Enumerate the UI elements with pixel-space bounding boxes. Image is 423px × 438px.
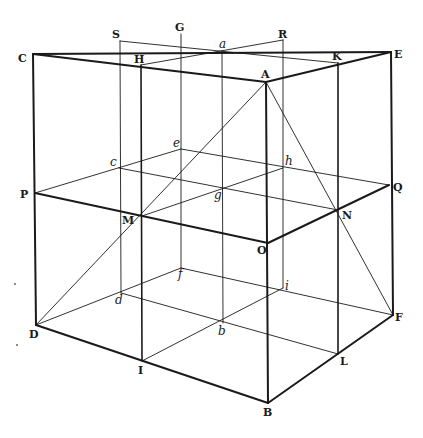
point-label-K: K	[332, 50, 342, 63]
stray-marks	[14, 283, 18, 346]
point-label-g: g	[214, 188, 222, 202]
segment-D-B	[36, 325, 268, 403]
point-label-e: e	[173, 136, 180, 150]
point-label-Q: Q	[393, 181, 403, 194]
point-label-N: N	[342, 209, 352, 222]
cube-diagram-svg: CSGREHaKAechPQgMNOfidDFbILB	[0, 0, 423, 438]
segment-A-E	[266, 52, 391, 82]
segment-a-b	[222, 51, 223, 323]
point-label-B: B	[263, 406, 272, 419]
segment-D-f	[36, 268, 181, 325]
point-label-M: M	[122, 214, 134, 227]
point-label-H: H	[134, 53, 144, 66]
segment-C-A	[33, 54, 266, 82]
point-label-D: D	[29, 328, 39, 341]
segment-P-e	[35, 149, 181, 193]
segment-B-F	[268, 315, 393, 403]
point-label-c: c	[110, 155, 117, 169]
point-label-O: O	[257, 244, 267, 257]
cube-diagram: CSGREHaKAechPQgMNOfidDFbILB	[0, 0, 423, 438]
point-label-G: G	[175, 21, 184, 34]
segment-d-L	[121, 293, 338, 354]
point-label-A: A	[260, 68, 270, 81]
point-label-C: C	[18, 52, 27, 65]
point-label-f: f	[177, 267, 185, 281]
point-label-I: I	[138, 364, 143, 377]
point-label-F: F	[395, 311, 403, 324]
segment-I-i	[142, 288, 283, 361]
segment-c-N	[119, 168, 338, 210]
point-label-E: E	[394, 48, 402, 61]
stray-mark	[14, 283, 16, 285]
point-labels: CSGREHaKAechPQgMNOfidDFbILB	[18, 21, 403, 419]
segment-C-D	[33, 54, 36, 325]
point-label-d: d	[115, 293, 123, 307]
point-label-a: a	[219, 37, 226, 51]
segment-M-h	[142, 168, 283, 216]
segment-A-D	[36, 82, 266, 325]
segment-O-Q	[268, 185, 389, 243]
stray-mark	[16, 344, 18, 346]
point-label-L: L	[340, 355, 348, 368]
diagram-edges	[33, 34, 393, 403]
point-label-R: R	[278, 28, 288, 41]
segment-P-O	[35, 193, 268, 243]
point-label-S: S	[112, 28, 120, 41]
point-label-i: i	[285, 279, 289, 293]
point-label-b: b	[218, 324, 226, 338]
point-label-P: P	[20, 188, 28, 201]
point-label-h: h	[285, 154, 293, 168]
